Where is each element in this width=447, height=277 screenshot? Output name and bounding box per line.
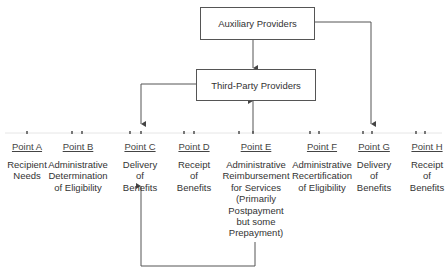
- auxiliary-providers-box: Auxiliary Providers: [200, 7, 315, 40]
- desc-line: of: [392, 170, 447, 181]
- desc-line: of: [159, 170, 229, 181]
- desc-line: Determination: [43, 170, 113, 181]
- desc-line: for Services: [221, 182, 291, 193]
- desc-line: Reimbursement: [221, 170, 291, 181]
- desc-line: but some: [221, 216, 291, 227]
- point-label: Point H: [392, 141, 447, 153]
- desc-line: of Eligibility: [43, 182, 113, 193]
- point-description: Administrative Reimbursement for Service…: [221, 159, 291, 239]
- point-description: Receipt of Benefits: [159, 159, 229, 193]
- desc-line: Postpayment: [221, 205, 291, 216]
- desc-line: Benefits: [392, 182, 447, 193]
- auxiliary-providers-label: Auxiliary Providers: [218, 18, 297, 29]
- point-e: Point E Administrative Reimbursement for…: [221, 141, 291, 239]
- point-label: Point E: [221, 141, 291, 153]
- desc-line: Prepayment): [221, 227, 291, 238]
- desc-line: (Primarily: [221, 193, 291, 204]
- point-description: Administrative Determination of Eligibil…: [43, 159, 113, 193]
- third-party-providers-box: Third-Party Providers: [196, 69, 316, 101]
- point-h: Point H Receipt of Benefits: [392, 141, 447, 193]
- desc-line: Receipt: [159, 159, 229, 170]
- point-label: Point B: [43, 141, 113, 153]
- third-party-providers-label: Third-Party Providers: [211, 80, 301, 91]
- desc-line: Administrative: [221, 159, 291, 170]
- desc-line: Benefits: [159, 182, 229, 193]
- point-label: Point D: [159, 141, 229, 153]
- point-b: Point B Administrative Determination of …: [43, 141, 113, 193]
- point-d: Point D Receipt of Benefits: [159, 141, 229, 193]
- desc-line: Receipt: [392, 159, 447, 170]
- point-description: Receipt of Benefits: [392, 159, 447, 193]
- desc-line: Administrative: [43, 159, 113, 170]
